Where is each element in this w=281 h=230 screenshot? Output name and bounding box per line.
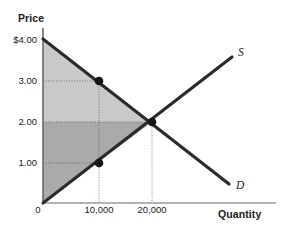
point-10000-price-1: [95, 159, 104, 168]
demand-curve-label: D: [236, 180, 244, 192]
y-tick-label-3: 3.00: [0, 76, 37, 86]
supply-demand-plot: [0, 0, 281, 230]
supply-curve-label: S: [238, 47, 244, 59]
x-tick-label-10000: 10,000: [72, 205, 126, 215]
x-tick-label-20000: 20,000: [125, 205, 179, 215]
y-tick-label-1: 1.00: [0, 158, 37, 168]
x-axis-title: Quantity: [218, 209, 261, 220]
y-tick-label-4: $4.00: [0, 35, 37, 45]
x-tick-label-0: 0: [28, 205, 48, 215]
chart-canvas: Price Quantity $4.00 3.00 2.00 1.00 0 10…: [0, 0, 281, 230]
point-10000-price-3: [95, 77, 104, 86]
y-axis-title: Price: [18, 13, 44, 24]
y-tick-label-2: 2.00: [0, 117, 37, 127]
equilibrium-point: [148, 118, 157, 127]
